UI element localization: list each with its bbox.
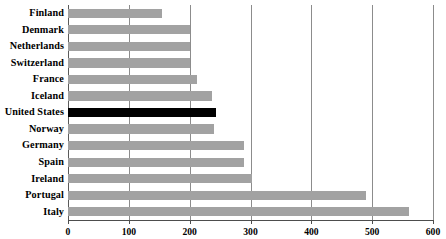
bar-chart: FinlandDenmarkNetherlandsSwitzerlandFran… xyxy=(0,0,446,239)
category-label-norway: Norway xyxy=(29,121,64,138)
category-label-portugal: Portugal xyxy=(25,187,64,204)
bar-portugal xyxy=(68,191,366,200)
tick-label-600: 600 xyxy=(426,226,440,237)
bar-netherlands xyxy=(68,42,190,51)
bar-row: Netherlands xyxy=(68,38,433,55)
category-label-germany: Germany xyxy=(22,137,64,154)
bar-row: Spain xyxy=(68,154,433,171)
bar-row: Italy xyxy=(68,204,433,221)
bar-denmark xyxy=(68,25,190,34)
bar-row: Norway xyxy=(68,121,433,138)
bar-ireland xyxy=(68,174,252,183)
tick-label-100: 100 xyxy=(122,226,136,237)
bar-italy xyxy=(68,207,409,216)
bar-row: Portugal xyxy=(68,187,433,204)
bar-row: France xyxy=(68,71,433,88)
bar-row: Denmark xyxy=(68,22,433,39)
tick-400 xyxy=(311,220,312,224)
category-label-ireland: Ireland xyxy=(31,171,64,188)
tick-200 xyxy=(190,220,191,224)
category-label-iceland: Iceland xyxy=(31,88,64,105)
bar-iceland xyxy=(68,91,212,100)
gridline-600 xyxy=(433,5,434,220)
bar-switzerland xyxy=(68,58,190,67)
category-label-netherlands: Netherlands xyxy=(10,38,64,55)
category-label-united-states: United States xyxy=(5,104,64,121)
bar-germany xyxy=(68,141,244,150)
tick-600 xyxy=(433,220,434,224)
tick-300 xyxy=(251,220,252,224)
bar-united-states xyxy=(68,108,216,117)
bar-row: Ireland xyxy=(68,171,433,188)
bar-rows: FinlandDenmarkNetherlandsSwitzerlandFran… xyxy=(68,5,433,220)
tick-label-400: 400 xyxy=(304,226,318,237)
bar-row: Finland xyxy=(68,5,433,22)
category-label-denmark: Denmark xyxy=(22,22,64,39)
bar-row: United States xyxy=(68,104,433,121)
bar-finland xyxy=(68,9,162,18)
bar-row: Germany xyxy=(68,137,433,154)
category-label-france: France xyxy=(33,71,64,88)
tick-100 xyxy=(129,220,130,224)
bar-spain xyxy=(68,158,244,167)
tick-label-500: 500 xyxy=(365,226,379,237)
category-label-switzerland: Switzerland xyxy=(11,55,64,72)
bar-norway xyxy=(68,124,214,133)
bar-row: Iceland xyxy=(68,88,433,105)
bar-france xyxy=(68,75,197,84)
tick-500 xyxy=(372,220,373,224)
category-label-finland: Finland xyxy=(29,5,64,22)
category-label-spain: Spain xyxy=(39,154,64,171)
tick-label-300: 300 xyxy=(243,226,257,237)
tick-label-200: 200 xyxy=(182,226,196,237)
category-label-italy: Italy xyxy=(43,204,64,221)
tick-label-0: 0 xyxy=(66,226,71,237)
plot-area: FinlandDenmarkNetherlandsSwitzerlandFran… xyxy=(68,5,433,220)
tick-0 xyxy=(68,220,69,224)
bar-row: Switzerland xyxy=(68,55,433,72)
